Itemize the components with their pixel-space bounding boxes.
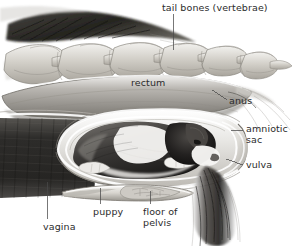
anatomy-figure: tail bones (vertebrae) rectum anus amnio… (0, 0, 297, 246)
rear-fur (192, 166, 240, 246)
label-floor-of-pelvis: floor of pelvis (143, 207, 178, 228)
label-vagina: vagina (43, 222, 76, 233)
label-tail-bones: tail bones (vertebrae) (162, 3, 268, 14)
label-puppy: puppy (93, 207, 123, 218)
label-amniotic-sac: amniotic sac (246, 124, 288, 145)
label-rectum: rectum (131, 78, 165, 89)
label-vulva: vulva (246, 160, 272, 171)
label-anus: anus (229, 96, 252, 107)
